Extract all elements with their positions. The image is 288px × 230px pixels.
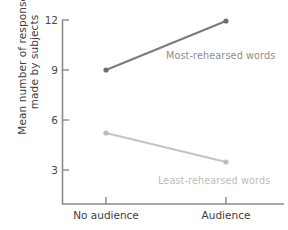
data-point-least-rehearsed-no-audience — [103, 130, 108, 135]
series-most-rehearsed-line — [106, 21, 226, 70]
line-chart-figure: Mean number of responses made by subject… — [0, 0, 288, 230]
series-most-rehearsed-words — [103, 18, 228, 72]
data-point-most-rehearsed-no-audience — [103, 67, 108, 72]
series-least-rehearsed-words — [103, 130, 228, 164]
plot-area — [0, 0, 288, 230]
series-least-rehearsed-line — [106, 133, 226, 162]
series-label-most-rehearsed-words: Most-rehearsed words — [166, 50, 275, 61]
data-point-most-rehearsed-audience — [223, 18, 228, 23]
data-point-least-rehearsed-audience — [223, 159, 228, 164]
series-label-least-rehearsed-words: Least-rehearsed words — [158, 175, 270, 186]
